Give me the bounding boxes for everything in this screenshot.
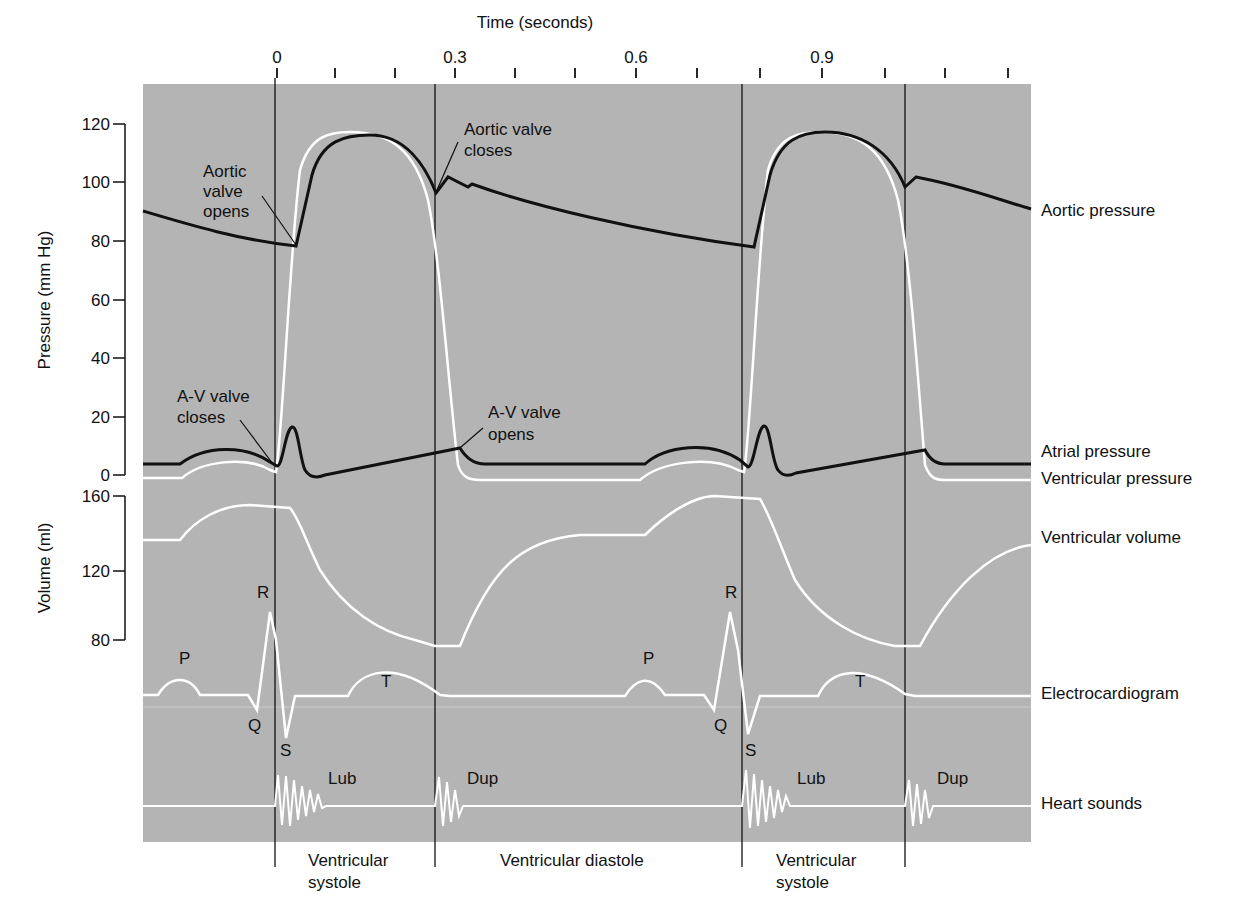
svg-text:Q: Q	[714, 716, 727, 735]
time-tick-0.9: 0.9	[810, 48, 834, 67]
svg-text:closes: closes	[464, 141, 512, 160]
svg-text:systole: systole	[308, 873, 361, 892]
svg-text:R: R	[725, 583, 737, 602]
svg-text:Lub: Lub	[328, 769, 356, 788]
svg-text:T: T	[381, 672, 391, 691]
svg-text:Dup: Dup	[937, 769, 968, 788]
svg-text:Aortic: Aortic	[203, 162, 247, 181]
series-legend: Aortic pressure Atrial pressure Ventricu…	[1041, 201, 1192, 813]
svg-text:valve: valve	[203, 182, 243, 201]
legend-ventricular-pressure: Ventricular pressure	[1041, 469, 1192, 488]
time-axis-ticks	[277, 68, 1008, 78]
pressure-tick-40: 40	[91, 349, 110, 368]
pressure-axis	[113, 124, 125, 475]
svg-text:Aortic valve: Aortic valve	[464, 120, 552, 139]
time-tick-0.6: 0.6	[624, 48, 648, 67]
pressure-tick-20: 20	[91, 408, 110, 427]
svg-text:Q: Q	[248, 716, 261, 735]
svg-text:Ventricular: Ventricular	[776, 851, 857, 870]
legend-electrocardiogram: Electrocardiogram	[1041, 684, 1179, 703]
svg-text:A-V valve: A-V valve	[177, 387, 250, 406]
pressure-axis-title: Pressure (mm Hg)	[35, 231, 54, 370]
svg-text:P: P	[179, 649, 190, 668]
svg-text:P: P	[643, 649, 654, 668]
svg-text:Ventricular: Ventricular	[308, 851, 389, 870]
svg-text:S: S	[280, 741, 291, 760]
pressure-tick-80: 80	[91, 232, 110, 251]
volume-tick-160: 160	[82, 487, 110, 506]
pressure-tick-0: 0	[101, 466, 110, 485]
legend-aortic-pressure: Aortic pressure	[1041, 201, 1155, 220]
pressure-tick-60: 60	[91, 291, 110, 310]
svg-text:R: R	[257, 583, 269, 602]
legend-heart-sounds: Heart sounds	[1041, 794, 1142, 813]
svg-text:opens: opens	[488, 425, 534, 444]
volume-axis	[113, 496, 125, 640]
svg-text:systole: systole	[776, 873, 829, 892]
phase-labels: Ventricular systole Ventricular diastole…	[308, 851, 857, 892]
cardiac-cycle-chart: Time (seconds) 0 0.3 0.6 0.9 120 100 80 …	[0, 0, 1252, 918]
volume-tick-80: 80	[91, 631, 110, 650]
svg-text:Ventricular diastole: Ventricular diastole	[500, 851, 644, 870]
svg-text:Lub: Lub	[797, 769, 825, 788]
pressure-tick-100: 100	[82, 173, 110, 192]
legend-atrial-pressure: Atrial pressure	[1041, 442, 1151, 461]
svg-text:T: T	[855, 672, 865, 691]
pressure-tick-120: 120	[82, 115, 110, 134]
svg-text:opens: opens	[203, 202, 249, 221]
volume-tick-120: 120	[82, 562, 110, 581]
time-axis-title: Time (seconds)	[477, 13, 594, 32]
time-tick-0: 0	[272, 48, 281, 67]
legend-ventricular-volume: Ventricular volume	[1041, 528, 1181, 547]
svg-text:A-V valve: A-V valve	[488, 403, 561, 422]
time-tick-0.3: 0.3	[443, 48, 467, 67]
svg-text:S: S	[745, 741, 756, 760]
svg-text:closes: closes	[177, 408, 225, 427]
volume-axis-title: Volume (ml)	[35, 523, 54, 614]
svg-text:Dup: Dup	[467, 769, 498, 788]
